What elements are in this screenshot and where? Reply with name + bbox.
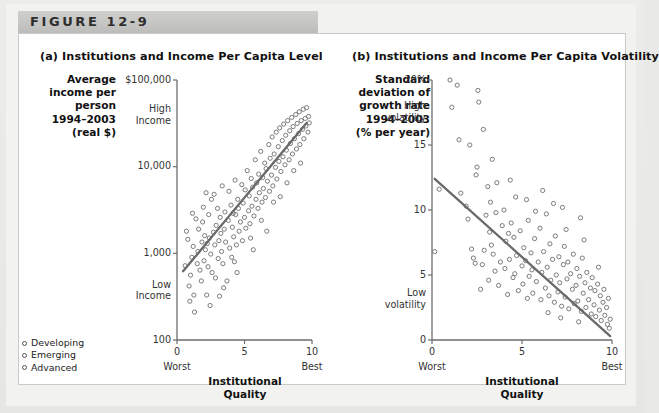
- panel-a-y-tick-label: $100,000: [109, 74, 171, 85]
- panel-b-y-tick-label: 15: [364, 139, 426, 150]
- panel-a-y-tick-label: 100: [109, 334, 171, 345]
- panel-a-points: [183, 106, 311, 315]
- panel-a-x-tick-label: 0: [162, 346, 192, 357]
- panel-a-y-annotation: Low Income: [105, 279, 171, 302]
- panel-b-y-tick-label: 20%: [364, 74, 426, 85]
- panel-a-y-tick-label: 1,000: [109, 247, 171, 258]
- panel-a-axes: [177, 80, 312, 340]
- panel-b-x-tick-label: 0: [417, 346, 447, 357]
- panel-b-y-annotation: Low volatility: [360, 287, 426, 310]
- panel-b-x-tick-label: 10: [597, 346, 627, 357]
- panel-b-x-endpoint-label: Worst: [410, 361, 454, 372]
- panel-a-x-endpoint-label: Worst: [155, 361, 199, 372]
- panel-b-y-tick-label: 0: [364, 334, 426, 345]
- panel-b-axes: [432, 80, 612, 340]
- panel-a-y-tick-label: 10,000: [109, 160, 171, 171]
- panel-a-x-endpoint-label: Best: [290, 361, 334, 372]
- panel-b-y-tick-label: 10: [364, 204, 426, 215]
- panel-b-x-tick-label: 5: [507, 346, 537, 357]
- panel-a-x-axis-title: Institutional Quality: [137, 375, 353, 401]
- panel-b-points: [433, 78, 613, 331]
- panel-b-y-tick-label: 5: [364, 269, 426, 280]
- panel-b-x-endpoint-label: Best: [590, 361, 634, 372]
- panel-a-x-tick-label: 10: [297, 346, 327, 357]
- panel-b-y-annotation: High volatility: [360, 100, 426, 123]
- panel-a-x-tick-label: 5: [230, 346, 260, 357]
- panel-b-x-axis-title: Institutional Quality: [392, 375, 652, 401]
- panel-a-trendline: [183, 123, 307, 271]
- panel-a-y-annotation: High Income: [105, 103, 171, 126]
